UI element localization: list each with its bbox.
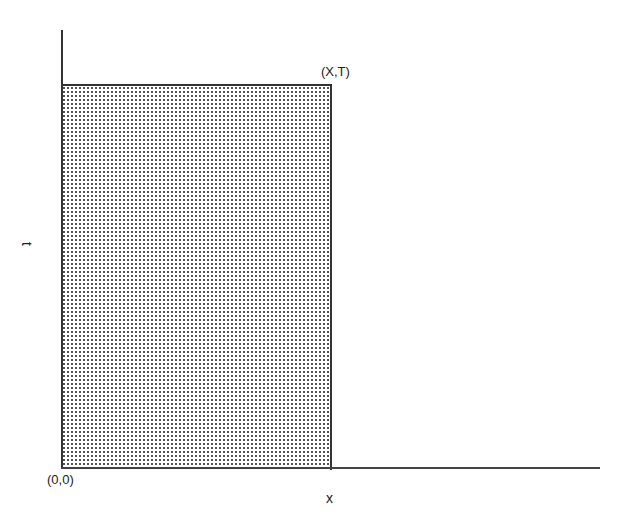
origin-label: (0,0) (47, 472, 74, 487)
t-axis-label: t (19, 242, 35, 246)
t-axis-line (61, 30, 63, 469)
x-axis-label: x (326, 490, 333, 506)
shaded-domain-rectangle (62, 84, 332, 470)
x-axis-line (61, 467, 600, 469)
diagram-canvas: (X,T) (0,0) x t (0, 0, 628, 522)
corner-point-label: (X,T) (321, 64, 350, 79)
